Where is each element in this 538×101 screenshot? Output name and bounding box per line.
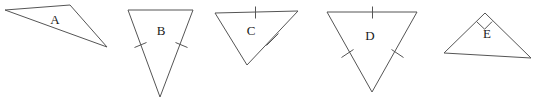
triangle-e-label: E bbox=[483, 26, 491, 41]
triangle-a-label: A bbox=[50, 12, 60, 27]
triangle-c-label: C bbox=[247, 23, 256, 38]
triangle-b-label: B bbox=[157, 23, 166, 38]
triangle-figure-canvas: A B C D E bbox=[0, 0, 538, 101]
triangle-figure-svg: A B C D E bbox=[0, 0, 538, 101]
figure-background bbox=[0, 0, 538, 101]
triangle-d-label: D bbox=[365, 28, 374, 43]
